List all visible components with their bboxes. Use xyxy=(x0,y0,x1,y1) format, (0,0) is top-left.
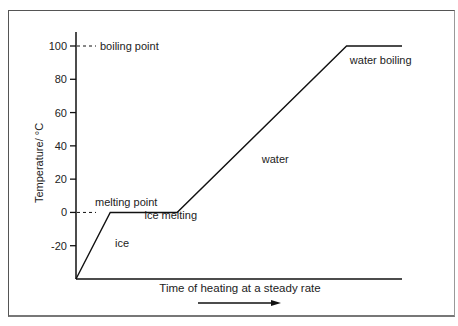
annotation-water: water xyxy=(261,153,289,165)
y-tick-label: 60 xyxy=(55,107,67,119)
melting-point-label: melting point xyxy=(95,196,157,208)
x-direction-arrow xyxy=(198,300,281,306)
y-tick-label: 0 xyxy=(61,206,67,218)
annotation-ice-melting: ice melting xyxy=(144,209,197,221)
y-tick-label: 100 xyxy=(49,40,67,52)
y-ticks: 100806040200-20 xyxy=(49,40,76,252)
x-axis-label: Time of heating at a steady rate xyxy=(159,282,320,294)
boiling-point-label: boiling point xyxy=(100,40,159,52)
reference-lines: boiling pointmelting point xyxy=(77,40,159,212)
annotation-ice: ice xyxy=(115,237,129,249)
y-tick-label: 20 xyxy=(55,173,67,185)
annotation-water-boiling: water boiling xyxy=(349,54,412,66)
y-tick-label: 40 xyxy=(55,140,67,152)
y-tick-label: -20 xyxy=(51,240,67,252)
y-axis-label: Temperature/ °C xyxy=(33,123,45,203)
y-tick-label: 80 xyxy=(55,73,67,85)
annotations: iceice meltingwaterwater boiling xyxy=(115,54,411,249)
heating-curve-chart: 100806040200-20 boiling pointmelting poi… xyxy=(0,0,458,326)
arrow-head xyxy=(271,300,281,306)
